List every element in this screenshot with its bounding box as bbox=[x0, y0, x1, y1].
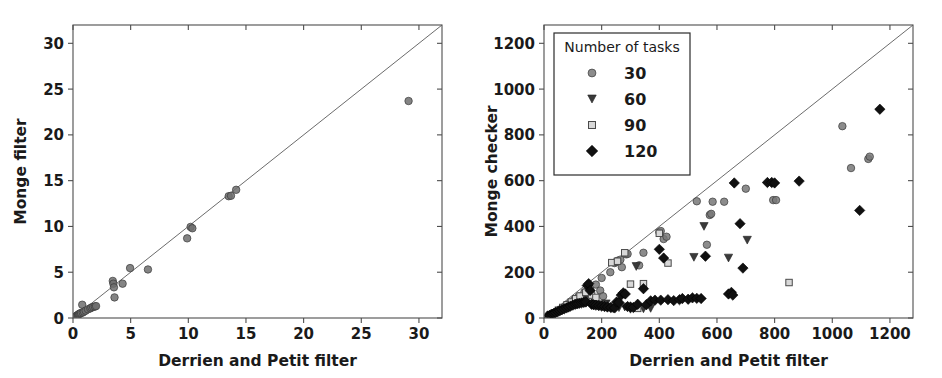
y-tick-label: 0 bbox=[525, 310, 535, 328]
data-point-90 bbox=[614, 258, 620, 264]
data-point-30 bbox=[707, 210, 714, 217]
y-tick-label: 0 bbox=[54, 310, 64, 328]
x-tick-label: 600 bbox=[701, 325, 732, 343]
legend-marker-90 bbox=[589, 122, 596, 129]
data-point-runs bbox=[110, 284, 117, 291]
data-point-runs bbox=[405, 97, 412, 104]
data-point-30 bbox=[866, 153, 873, 160]
y-tick-label: 10 bbox=[43, 218, 64, 236]
legend-marker-30 bbox=[588, 69, 596, 77]
data-point-30 bbox=[693, 198, 700, 205]
legend-label-60: 60 bbox=[624, 90, 646, 109]
x-tick-label: 1000 bbox=[811, 325, 853, 343]
y-tick-label: 15 bbox=[43, 172, 64, 190]
legend-title: Number of tasks bbox=[564, 39, 679, 55]
x-tick-label: 0 bbox=[68, 325, 78, 343]
data-point-runs bbox=[232, 186, 239, 193]
x-axis-title: Derrien and Petit filter bbox=[629, 352, 828, 370]
y-tick-label: 30 bbox=[43, 35, 64, 53]
data-point-runs bbox=[144, 266, 151, 273]
data-point-30 bbox=[703, 241, 710, 248]
y-tick-label: 600 bbox=[504, 172, 535, 190]
data-point-30 bbox=[599, 293, 606, 300]
legend-label-120: 120 bbox=[624, 142, 657, 161]
data-point-runs bbox=[92, 302, 99, 309]
data-point-30 bbox=[720, 198, 727, 205]
y-tick-label: 1000 bbox=[493, 81, 535, 99]
data-point-90 bbox=[786, 279, 792, 285]
x-tick-label: 200 bbox=[586, 325, 617, 343]
y-tick-label: 1200 bbox=[493, 35, 535, 53]
y-axis-title: Monge checker bbox=[483, 105, 501, 237]
y-tick-label: 25 bbox=[43, 81, 64, 99]
x-tick-label: 25 bbox=[351, 325, 372, 343]
y-tick-label: 200 bbox=[504, 264, 535, 282]
y-tick-label: 400 bbox=[504, 218, 535, 236]
data-point-90 bbox=[621, 250, 627, 256]
data-point-30 bbox=[839, 122, 846, 129]
data-point-runs bbox=[111, 294, 118, 301]
y-tick-label: 800 bbox=[504, 126, 535, 144]
scatter-panel-right: 0200400600800100012000200400600800100012… bbox=[471, 0, 942, 378]
x-tick-label: 20 bbox=[293, 325, 314, 343]
y-axis-title: Monge filter bbox=[12, 118, 30, 225]
data-point-runs bbox=[227, 192, 234, 199]
data-point-runs bbox=[119, 280, 126, 287]
x-tick-label: 400 bbox=[644, 325, 675, 343]
x-tick-label: 5 bbox=[125, 325, 135, 343]
left-plot-svg: 051015202530051015202530Derrien and Peti… bbox=[0, 0, 471, 378]
data-point-30 bbox=[640, 249, 647, 256]
legend-label-90: 90 bbox=[624, 116, 646, 135]
x-tick-label: 15 bbox=[236, 325, 257, 343]
data-point-90 bbox=[656, 230, 662, 236]
data-point-90 bbox=[627, 281, 633, 287]
data-point-30 bbox=[709, 198, 716, 205]
data-point-30 bbox=[598, 274, 605, 281]
x-tick-label: 0 bbox=[539, 325, 549, 343]
data-point-runs bbox=[183, 235, 190, 242]
y-tick-label: 20 bbox=[43, 126, 64, 144]
legend-label-30: 30 bbox=[624, 64, 646, 83]
right-plot-svg: 0200400600800100012000200400600800100012… bbox=[471, 0, 942, 378]
figure-root: 051015202530051015202530Derrien and Peti… bbox=[0, 0, 942, 378]
data-point-30 bbox=[847, 164, 854, 171]
x-axis-title: Derrien and Petit filter bbox=[158, 352, 357, 370]
data-point-30 bbox=[663, 233, 670, 240]
scatter-panel-left: 051015202530051015202530Derrien and Peti… bbox=[0, 0, 471, 378]
data-point-30 bbox=[742, 185, 749, 192]
data-point-30 bbox=[607, 268, 614, 275]
x-tick-label: 800 bbox=[759, 325, 790, 343]
x-tick-label: 30 bbox=[409, 325, 430, 343]
x-tick-label: 10 bbox=[178, 325, 199, 343]
data-point-30 bbox=[772, 196, 779, 203]
data-point-runs bbox=[126, 264, 133, 271]
data-point-runs bbox=[189, 225, 196, 232]
legend: Number of tasks306090120 bbox=[554, 33, 690, 175]
x-tick-label: 1200 bbox=[869, 325, 911, 343]
y-tick-label: 5 bbox=[54, 264, 64, 282]
